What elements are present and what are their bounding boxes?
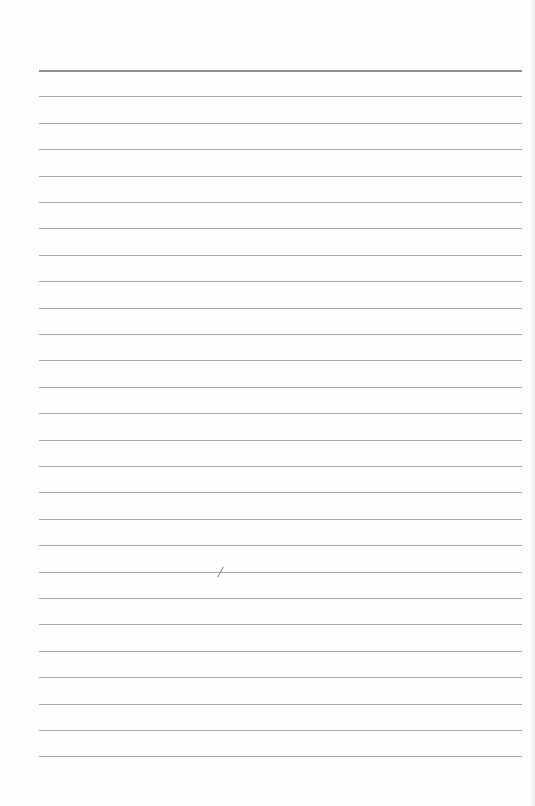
rule-line	[39, 308, 522, 309]
rule-line	[39, 255, 522, 256]
rule-line	[39, 519, 522, 520]
rule-line	[39, 624, 522, 625]
page-edge-shadow	[529, 0, 535, 806]
rule-line	[39, 202, 522, 203]
rule-line	[39, 123, 522, 124]
rule-line	[39, 334, 522, 335]
rule-line	[39, 149, 522, 150]
rule-line	[39, 572, 522, 573]
rule-line	[39, 730, 522, 731]
rule-line	[39, 440, 522, 441]
rule-line	[39, 704, 522, 705]
rule-line	[39, 492, 522, 493]
rule-line	[39, 360, 522, 361]
rule-line	[39, 281, 522, 282]
rule-line	[39, 677, 522, 678]
rule-line	[39, 756, 522, 757]
rule-line	[39, 96, 522, 97]
rule-line	[39, 176, 522, 177]
rule-line	[39, 387, 522, 388]
rule-line	[39, 545, 522, 546]
top-rule-line	[39, 70, 522, 72]
rule-line	[39, 466, 522, 467]
rule-line	[39, 413, 522, 414]
lined-paper-page	[0, 0, 535, 806]
rule-line	[39, 598, 522, 599]
rule-line	[39, 228, 522, 229]
rule-line	[39, 651, 522, 652]
